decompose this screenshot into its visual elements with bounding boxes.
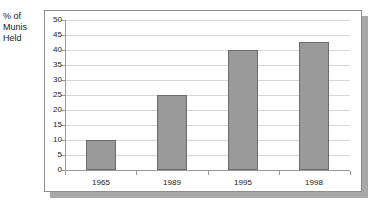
bar [299,42,329,170]
x-axis-tick-mark [208,171,209,175]
bar-chart-figure: % of Munis Held 50454035302520151050 196… [0,0,375,212]
x-axis-tick-label: 1965 [76,178,126,187]
bar [86,140,116,170]
x-axis-tick-mark [136,171,137,175]
y-axis-tick-label: 40 [46,46,62,54]
y-axis-tick-label: 10 [46,136,62,144]
y-axis-tick-label: 15 [46,121,62,129]
y-axis-tick-label: 25 [46,91,62,99]
x-axis-tick-mark [279,171,280,175]
x-axis-tick-label: 1989 [147,178,197,187]
y-axis-tick-label: 50 [46,16,62,24]
y-axis-tick-label: 20 [46,106,62,114]
y-axis-tick-label: 45 [46,31,62,39]
bar [228,50,258,170]
y-axis-tick-label: 0 [46,166,62,174]
x-axis-tick-mark [65,171,66,175]
plot-area [65,20,350,170]
bar [157,95,187,170]
y-axis-tick-label: 30 [46,76,62,84]
y-axis-title: % of Munis Held [3,11,43,44]
y-axis-tick-label: 5 [46,151,62,159]
x-axis-tick-label: 1995 [218,178,268,187]
x-axis-tick-label: 1998 [289,178,339,187]
y-axis-tick-label: 35 [46,61,62,69]
x-axis-tick-mark [350,171,351,175]
